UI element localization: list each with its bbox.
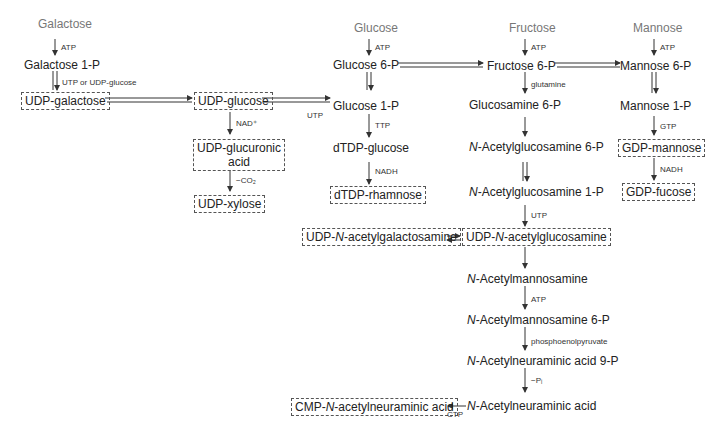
label-atp-fructose: ATP xyxy=(531,43,546,53)
node-mannose-6p: Mannose 6-P xyxy=(620,59,691,73)
node-udp-n-acetylgalactosamine: UDP-N-acetylgalactosamine xyxy=(302,228,461,246)
name-b: -acetylneuraminic acid xyxy=(334,400,453,414)
name-rest: -Acetylglucosamine 6-P xyxy=(478,140,604,154)
name-a: UDP- xyxy=(466,230,495,244)
node-dtdp-rhamnose: dTDP-rhamnose xyxy=(330,186,426,204)
label-atp-galactose: ATP xyxy=(61,43,76,53)
italic-n: N xyxy=(467,272,476,286)
node-gdp-mannose: GDP-mannose xyxy=(618,139,705,157)
italic-n: N xyxy=(335,230,344,244)
node-gdp-fucose: GDP-fucose xyxy=(622,183,695,201)
name-b: -acetylglucosamine xyxy=(504,230,607,244)
node-n-acetylglucosamine-1p: N-Acetylglucosamine 1-P xyxy=(469,185,604,199)
node-udp-glucose: UDP-glucose xyxy=(194,92,273,110)
node-cmp-n-acetylneuraminic-acid: CMP-N-acetylneuraminic acid xyxy=(291,398,458,416)
label-ttp: TTP xyxy=(375,121,390,131)
node-n-acetylmannosamine-6p: N-Acetylmannosamine 6-P xyxy=(467,313,610,327)
label-utp-or-udp-glucose: UTP or UDP-glucose xyxy=(62,78,137,88)
label-phosphoenolpyruvate: phosphoenolpyruvate xyxy=(531,337,608,347)
italic-n: N xyxy=(467,354,476,368)
italic-n: N xyxy=(495,230,504,244)
node-udp-galactose: UDP-galactose xyxy=(21,92,110,110)
node-n-acetylmannosamine: N-Acetylmannosamine xyxy=(467,272,588,286)
label-gtp: GTP xyxy=(660,122,676,132)
label-atp-glucose: ATP xyxy=(375,43,390,53)
node-glucose-1p: Glucose 1-P xyxy=(333,99,399,113)
label-glutamine: glutamine xyxy=(531,80,566,90)
name-a: CMP- xyxy=(295,400,326,414)
node-n-acetylneuraminic-acid: N-Acetylneuraminic acid xyxy=(467,399,596,413)
label-utp-glucose-1p: UTP xyxy=(307,111,323,121)
node-udp-xylose: UDP-xylose xyxy=(194,195,265,213)
italic-n: N xyxy=(469,140,478,154)
label-nadh-fucose: NADH xyxy=(660,165,683,175)
name-rest: -Acetylglucosamine 1-P xyxy=(478,185,604,199)
italic-n: N xyxy=(467,399,476,413)
node-galactose-1p: Galactose 1-P xyxy=(24,58,100,72)
label-ctp: CTP xyxy=(447,410,463,420)
node-mannose-1p: Mannose 1-P xyxy=(620,99,691,113)
label-utp-glcnac: UTP xyxy=(531,211,547,221)
node-glucosamine-6p: Glucosamine 6-P xyxy=(469,98,561,112)
node-dtdp-glucose: dTDP-glucose xyxy=(333,141,409,155)
name-rest: -Acetylmannosamine xyxy=(476,272,588,286)
node-n-acetylneuraminic-acid-9p: N-Acetylneuraminic acid 9-P xyxy=(467,354,618,368)
udp-glucuronic-line2: acid xyxy=(197,155,281,169)
italic-n: N xyxy=(467,313,476,327)
name-rest: -Acetylneuraminic acid 9-P xyxy=(476,354,619,368)
italic-n: N xyxy=(469,185,478,199)
label-atp-nacman: ATP xyxy=(531,295,546,305)
node-glucose-6p: Glucose 6-P xyxy=(333,58,399,72)
node-udp-glucuronic-acid: UDP-glucuronic acid xyxy=(193,139,285,171)
label-nadh-rhamnose: NADH xyxy=(375,167,398,177)
name-a: UDP- xyxy=(306,230,335,244)
node-n-acetylglucosamine-6p: N-Acetylglucosamine 6-P xyxy=(469,140,604,154)
node-glucose: Glucose xyxy=(354,21,398,35)
node-fructose-6p: Fructose 6-P xyxy=(487,59,556,73)
label-nad: NAD⁺ xyxy=(236,119,257,129)
label-co2: −CO₂ xyxy=(236,176,256,186)
label-atp-mannose: ATP xyxy=(660,43,675,53)
node-galactose: Galactose xyxy=(38,17,92,31)
name-rest: -Acetylmannosamine 6-P xyxy=(476,313,610,327)
node-udp-n-acetylglucosamine: UDP-N-acetylglucosamine xyxy=(462,228,611,246)
node-fructose: Fructose xyxy=(509,21,556,35)
name-b: -acetylgalactosamine xyxy=(344,230,457,244)
udp-glucuronic-line1: UDP-glucuronic xyxy=(197,141,281,155)
node-mannose: Mannose xyxy=(633,21,682,35)
name-rest: -Acetylneuraminic acid xyxy=(476,399,597,413)
label-pi: −Pᵢ xyxy=(531,376,542,386)
